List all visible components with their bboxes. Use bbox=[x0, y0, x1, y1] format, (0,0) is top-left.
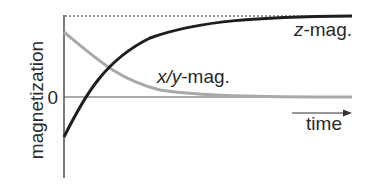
y-axis-label: magnetization bbox=[26, 41, 47, 159]
xy-magnetization-curve bbox=[64, 32, 352, 97]
time-label: time bbox=[306, 113, 342, 134]
xy-mag-label: x/y-mag. bbox=[156, 66, 230, 87]
arrow-head-icon bbox=[343, 110, 352, 117]
zero-label: 0 bbox=[47, 87, 58, 108]
z-mag-label: z-mag. bbox=[293, 19, 352, 40]
magnetization-diagram: time 0 magnetization z-mag. x/y-mag. bbox=[0, 0, 373, 185]
